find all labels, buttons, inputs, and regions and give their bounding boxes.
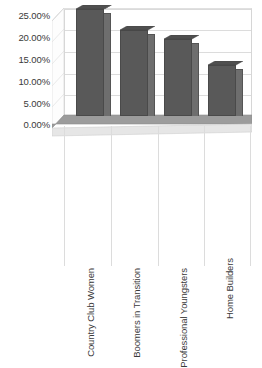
bar-boomers-in-transition[interactable] (120, 30, 148, 116)
y-tick-label: 25.00% (0, 11, 50, 21)
y-tick-label: 20.00% (0, 33, 50, 43)
x-label-boomers-in-transition: Boomers in Transition (131, 268, 142, 358)
bar-cap (76, 5, 105, 10)
y-axis: 25.00% 20.00% 15.00% 10.00% 5.00% 0.00% (0, 0, 52, 272)
x-label-home-builders: Home Builders (224, 258, 235, 319)
bar-front (76, 9, 104, 116)
bar-side (192, 43, 199, 116)
bar-front (164, 39, 192, 116)
bar-cap (120, 26, 149, 31)
bar-front (208, 65, 236, 116)
bar-cap (208, 61, 237, 66)
bar-side (148, 34, 155, 116)
x-label-country-club-women: Country Club Women (85, 268, 96, 357)
y-tick-label: 0.00% (0, 120, 50, 130)
bar-front (120, 30, 148, 116)
y-tick-label: 15.00% (0, 55, 50, 65)
bars-layer (52, 8, 252, 132)
bar-professional-youngsters[interactable] (164, 39, 192, 116)
x-label-professional-youngsters: Professional Youngsters (178, 268, 189, 368)
y-tick-label: 5.00% (0, 99, 50, 109)
x-axis-labels: Country Club Women Boomers in Transition… (52, 132, 252, 272)
y-tick-label: 10.00% (0, 77, 50, 87)
bar-cap (164, 35, 193, 40)
bar-side (104, 13, 111, 116)
bar-country-club-women[interactable] (76, 9, 104, 116)
bar-home-builders[interactable] (208, 65, 236, 116)
bar-side (236, 69, 243, 116)
plot-area (52, 8, 252, 132)
